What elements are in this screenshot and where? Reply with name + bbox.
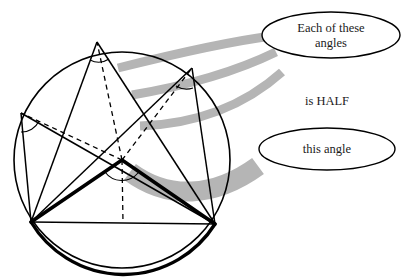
dashed-radius-to-arc-left <box>21 113 122 160</box>
callout-each-angles-line2: angles <box>315 36 347 50</box>
label-is-half: is HALF <box>305 94 349 108</box>
inscribed-angle-top-arc <box>90 59 109 62</box>
chord-left-to-arc-left <box>21 113 31 222</box>
callout-this-angle[interactable]: this angle <box>259 128 395 170</box>
pointer-ribbons-group <box>118 36 282 192</box>
dashed-perpendicular-to-base <box>122 160 123 223</box>
inscribed-angle-left-arc <box>21 121 39 132</box>
callout-this-angle-line1: this angle <box>303 142 352 156</box>
callout-each-angles[interactable]: Each of these angles <box>262 12 400 58</box>
geometry-diagram: Each of these angles is HALF this angle <box>0 0 405 278</box>
dashed-radius-to-top <box>97 42 122 160</box>
callout-each-angles-line1: Each of these <box>297 21 365 35</box>
figure-canvas: Each of these angles is HALF this angle <box>0 0 405 278</box>
